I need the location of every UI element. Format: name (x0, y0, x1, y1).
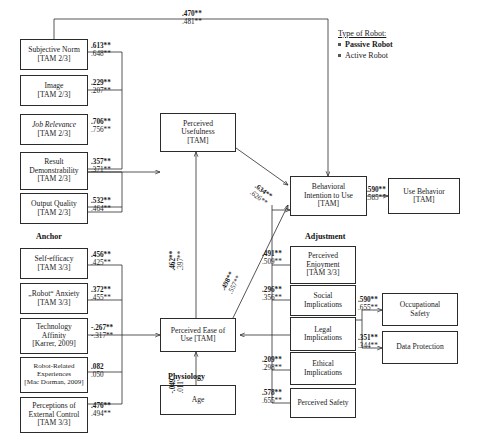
coef-img-pu: .229** .207** (91, 80, 111, 96)
node-social-implications[interactable]: Social Implications (290, 285, 356, 316)
node-ethical-implications[interactable]: Ethical Implications (290, 352, 356, 385)
coef-active: .298** (262, 365, 282, 373)
group-title-anchor: Anchor (36, 232, 62, 241)
node-line: Safety (400, 310, 440, 319)
node-image[interactable]: Image [TAM 2/3] (20, 75, 88, 106)
node-use-behavior[interactable]: Use Behavior [TAM] (388, 178, 460, 214)
node-line: [TAM 2/3] (31, 209, 77, 218)
legend-item-label: Active Robot (345, 51, 388, 60)
node-line: [TAM 3/3] (28, 299, 79, 308)
coef-peou-bi: .498** .557** (220, 271, 243, 296)
coef-active: .655** (358, 305, 378, 313)
coef-active: .344** (358, 343, 378, 351)
coef-rre-peou: .082 .050 (91, 364, 104, 380)
coef-bi-ub: .590** .585** (366, 187, 386, 203)
coef-li-dp: .351** .344** (358, 335, 378, 351)
coef-sn-bi: .470** .481** (182, 11, 202, 27)
coef-ra-peou: .372** .455** (91, 287, 111, 303)
coef-jr-pu: .706** .756** (91, 119, 111, 135)
legend: Type of Robot: Passive Robot Active Robo… (338, 29, 393, 62)
node-self-efficacy[interactable]: Self-efficacy [TAM 3/3] (20, 248, 88, 279)
coef-active: .481** (182, 19, 202, 27)
coef-active: .494** (91, 411, 111, 419)
node-line: [Karrer, 2009] (32, 340, 76, 349)
node-line: [TAM 3/3] (29, 419, 80, 428)
node-line: [TAM] (304, 200, 353, 209)
node-perceptions-external-control[interactable]: Perceptions of External Control [TAM 3/3… (20, 397, 88, 433)
group-title-adjustment: Adjustment (305, 232, 345, 241)
coef-ps-bi: .578** .655** (262, 390, 282, 406)
node-result-demonstrability[interactable]: Result Demonstrability [TAM 2/3] (20, 152, 88, 190)
coef-active: .655** (262, 398, 282, 406)
node-line: [TAM 2/3] (38, 91, 71, 100)
node-perceived-usefulness[interactable]: Perceived Usefulness [TAM] (160, 113, 236, 152)
coef-active: .050 (91, 372, 104, 380)
coef-active: -.317** (91, 333, 113, 341)
square-bullet-icon (338, 54, 341, 57)
node-line: Age (192, 396, 205, 405)
node-line: [TAM] (181, 137, 214, 146)
node-perceived-ease-of-use[interactable]: Perceived Ease of Use [TAM] (160, 318, 236, 352)
node-robot-related-experiences[interactable]: Robot-Related Experiences [Mac Dorman, 2… (20, 357, 88, 393)
coef-active: .585** (366, 195, 386, 203)
coef-peou-pu: .462** .397** (170, 251, 186, 271)
coef-active: .356** (262, 295, 282, 303)
coef-se-peou: .456** .425** (91, 252, 111, 268)
coef-active: .648** (91, 51, 111, 59)
node-behavioral-intention[interactable]: Behavioral Intention to Use [TAM] (290, 176, 367, 216)
node-perceived-enjoyment[interactable]: Perceived Enjoyment [TAM 3/3] (290, 246, 356, 284)
node-data-protection[interactable]: Data Protection (382, 331, 458, 364)
square-bullet-icon (338, 43, 341, 46)
node-technology-affinity[interactable]: Technology Affinity [Karrer, 2009] (20, 318, 88, 354)
coef-li-os: .590** .655** (358, 297, 378, 313)
node-robot-anxiety[interactable]: „Robot“ Anxiety [TAM 3/3] (20, 283, 88, 314)
coef-rd-pu: .357** .371** (91, 159, 111, 175)
node-line: Data Protection (396, 343, 443, 352)
legend-item-label: Passive Robot (345, 40, 393, 49)
node-legal-implications[interactable]: Legal Implications (290, 317, 356, 351)
node-line: [TAM 3/3] (306, 269, 339, 278)
coef-active: .509** (262, 259, 282, 267)
node-line: [TAM 2/3] (29, 175, 78, 184)
coef-active: .371** (91, 167, 111, 175)
coef-active: .756** (91, 127, 111, 135)
coef-active: .455** (91, 295, 111, 303)
node-job-relevance[interactable]: Job Relevance [TAM 2/3] (20, 114, 88, 145)
path-diagram-canvas: Subjective Norm [TAM 2/3] Image [TAM 2/3… (0, 0, 479, 442)
node-perceived-safety[interactable]: Perceived Safety (290, 388, 356, 418)
coef-pu-bi: .634** .626** (248, 183, 273, 207)
node-output-quality[interactable]: Output Quality [TAM 2/3] (20, 193, 88, 224)
coef-ei-bi: .209** .298** (262, 357, 282, 373)
node-line: [TAM 2/3] (28, 55, 80, 64)
node-line: [TAM 3/3] (34, 264, 73, 273)
node-line: [TAM 2/3] (32, 130, 76, 139)
node-line: [Mac Dorman, 2009] (24, 379, 83, 387)
coef-age-peou: -.049 .011 (170, 379, 186, 394)
node-line: Perceived Safety (297, 399, 348, 408)
coef-pec-peou: .476** .494** (91, 403, 111, 419)
coef-ta-peou: -.267** -.317** (91, 325, 113, 341)
coef-si-bi: .296** .356** (262, 287, 282, 303)
coef-active: .425** (91, 260, 111, 268)
coef-pe-bi: .491** .509** (262, 251, 282, 267)
node-line: Implications (304, 334, 342, 343)
node-subjective-norm[interactable]: Subjective Norm [TAM 2/3] (20, 39, 88, 70)
node-line: Implications (304, 369, 342, 378)
node-line: Use [TAM] (171, 335, 225, 344)
node-line: Implications (304, 301, 342, 310)
legend-title: Type of Robot: (338, 29, 393, 38)
coef-active: .397** (178, 251, 186, 271)
coef-oq-pu: .532** .464** (91, 198, 111, 214)
node-occupational-safety[interactable]: Occupational Safety (382, 293, 458, 326)
node-line: [TAM] (403, 196, 445, 205)
legend-item-active-robot: Active Robot (338, 51, 393, 60)
coef-sn-pu: .613** .648** (91, 43, 111, 59)
coef-active: .464** (91, 206, 111, 214)
legend-item-passive-robot: Passive Robot (338, 40, 393, 49)
coef-active: .011 (178, 379, 186, 394)
coef-active: .207** (91, 88, 111, 96)
